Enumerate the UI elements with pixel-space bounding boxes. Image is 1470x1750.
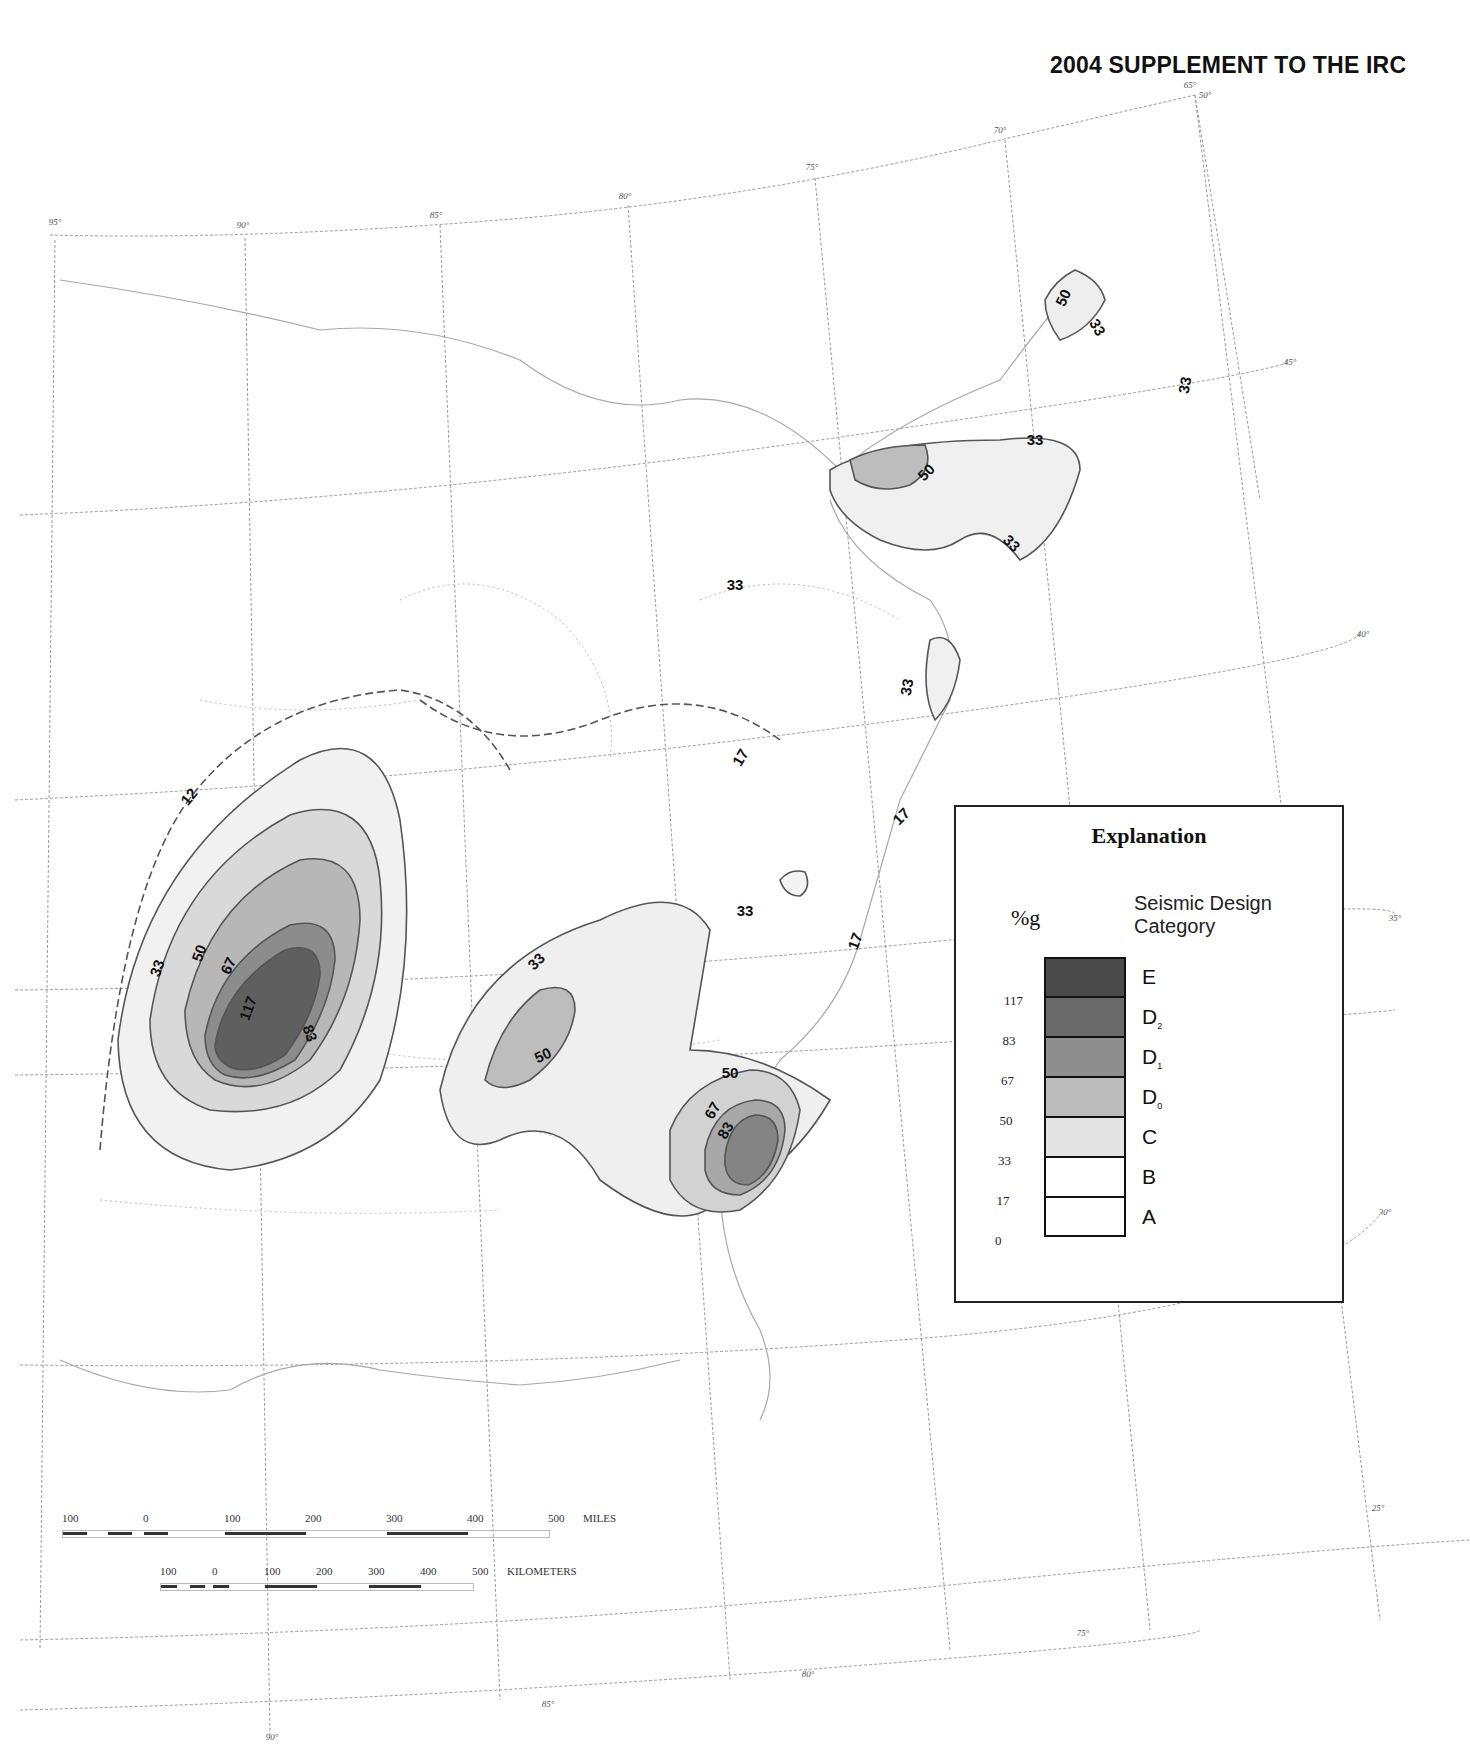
scale-unit-label: MILES: [583, 1512, 616, 1524]
scale-bar-graphic: [160, 1583, 474, 1591]
latitude-tick-label: 25°: [1372, 1503, 1385, 1513]
longitude-tick-label: 75°: [806, 162, 819, 172]
legend-value: 17: [997, 1193, 1010, 1209]
category-subscript: 1: [1157, 1061, 1162, 1071]
latitude-tick-label: 45°: [1284, 357, 1297, 367]
category-letter: D: [1142, 1005, 1157, 1028]
longitude-tick-label: 50°: [1199, 90, 1212, 100]
longitude-tick-label: 95°: [49, 217, 62, 227]
legend-subtitle: Seismic Design Category: [1134, 892, 1272, 938]
contour-label: 33: [1175, 375, 1195, 394]
scale-tick-label: 100: [224, 1512, 241, 1524]
scale-tick-label: 100: [62, 1512, 79, 1524]
latitude-tick-label: 30°: [1378, 1207, 1392, 1217]
scale-tick-label: 0: [212, 1565, 218, 1577]
legend-unit: %g: [1011, 905, 1040, 931]
contour-label: 50: [722, 1064, 739, 1081]
legend-category-label: E: [1142, 965, 1156, 989]
category-letter: A: [1142, 1205, 1156, 1228]
legend-swatch: [1044, 1077, 1126, 1117]
legend-category-label: C: [1142, 1125, 1157, 1149]
scale-tick-label: 0: [143, 1512, 149, 1524]
longitude-tick-label: 70°: [994, 125, 1007, 135]
scale-tick-label: 200: [316, 1565, 333, 1577]
legend-value: 117: [1004, 993, 1023, 1009]
legend-swatch: [1044, 1197, 1126, 1237]
scale-tick-label: 400: [467, 1512, 484, 1524]
longitude-tick-label: 85°: [542, 1699, 555, 1709]
legend-value: 33: [998, 1153, 1011, 1169]
northeast-zone: [780, 270, 1105, 896]
longitude-tick-label: 80°: [802, 1669, 815, 1679]
legend-box: Explanation %g Seismic Design Category E…: [954, 805, 1344, 1303]
longitude-tick-label: 90°: [266, 1732, 279, 1742]
legend-value: 83: [1003, 1033, 1016, 1049]
scale-tick-label: 500: [548, 1512, 565, 1524]
longitude-tick-label: 65°: [1184, 80, 1197, 90]
legend-value: 67: [1001, 1073, 1014, 1089]
longitude-ticks-top: 95°90°85°80°75°70°65°50°: [49, 80, 1212, 230]
latitude-tick-label: 40°: [1357, 629, 1370, 639]
legend-title: Explanation: [956, 823, 1342, 849]
legend-swatch: [1044, 1037, 1126, 1077]
contour-label: 17: [729, 746, 752, 769]
contour-label: 33: [1027, 431, 1044, 448]
legend-swatches: [1044, 957, 1126, 1237]
scale-tick-label: 500: [472, 1565, 489, 1577]
legend-category-label: D0: [1142, 1085, 1162, 1111]
longitude-tick-label: 75°: [1077, 1628, 1090, 1638]
category-letter: B: [1142, 1165, 1156, 1188]
scale-tick-label: 200: [305, 1512, 322, 1524]
category-letter: C: [1142, 1125, 1157, 1148]
new-madrid-zone: [118, 749, 407, 1170]
category-subscript: 0: [1157, 1101, 1162, 1111]
legend-swatch: [1044, 997, 1126, 1037]
legend-value: 0: [995, 1233, 1002, 1249]
legend-subtitle-line2: Category: [1134, 915, 1272, 938]
scale-tick-label: 100: [160, 1565, 177, 1577]
legend-category-label: B: [1142, 1165, 1156, 1189]
legend-swatch: [1044, 1117, 1126, 1157]
scale-bar-graphic: [62, 1530, 550, 1538]
longitude-ticks-bottom: 90°85°80°75°: [266, 1628, 1090, 1742]
scale-unit-label: KILOMETERS: [507, 1565, 577, 1577]
category-letter: D: [1142, 1045, 1157, 1068]
category-letter: E: [1142, 965, 1156, 988]
contour-label: 33: [737, 902, 754, 919]
legend-subtitle-line1: Seismic Design: [1134, 892, 1272, 915]
legend-category-label: A: [1142, 1205, 1156, 1229]
contour-label: 33: [897, 677, 917, 696]
scale-tick-label: 100: [264, 1565, 281, 1577]
category-letter: D: [1142, 1085, 1157, 1108]
scale-tick-label: 300: [386, 1512, 403, 1524]
legend-category-label: D2: [1142, 1005, 1162, 1031]
legend-value: 50: [1000, 1113, 1013, 1129]
legend-swatch: [1044, 1157, 1126, 1197]
longitude-tick-label: 80°: [619, 191, 632, 201]
longitude-tick-label: 85°: [430, 210, 443, 220]
contour-label: 33: [727, 576, 744, 593]
longitude-tick-label: 90°: [237, 220, 250, 230]
category-subscript: 2: [1157, 1021, 1162, 1031]
scale-tick-label: 400: [420, 1565, 437, 1577]
legend-swatch: [1044, 957, 1126, 997]
legend-category-label: D1: [1142, 1045, 1162, 1071]
latitude-tick-label: 35°: [1388, 913, 1402, 923]
scale-tick-label: 300: [368, 1565, 385, 1577]
